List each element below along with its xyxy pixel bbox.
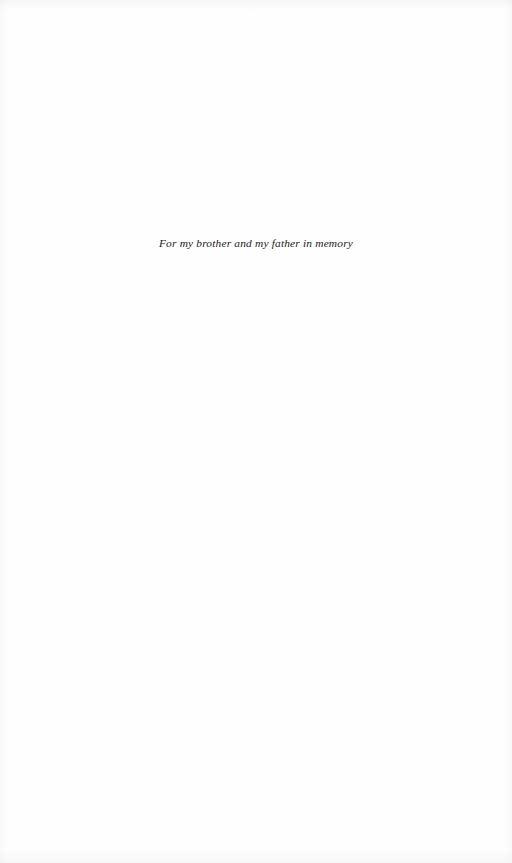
page-scan-tone xyxy=(0,0,512,863)
dedication-text: For my brother and my father in memory xyxy=(159,234,353,252)
dedication-block: For my brother and my father in memory xyxy=(0,233,512,252)
scanned-page: For my brother and my father in memory xyxy=(0,0,512,863)
